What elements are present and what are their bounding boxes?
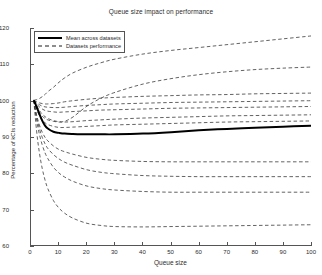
y-tick-label: 100: [0, 98, 9, 104]
dataset-line: [34, 100, 311, 127]
x-tick-label: 40: [127, 249, 157, 255]
y-tick-label: 80: [0, 170, 9, 176]
chart-title: Queue size impact on performance: [0, 8, 322, 15]
x-tick-label: 100: [296, 249, 322, 255]
dataset-line: [34, 100, 311, 176]
legend-label: Mean across datasets: [66, 35, 121, 41]
y-axis-label: Percentage of kCIs reduction: [10, 80, 16, 200]
dataset-line: [34, 100, 311, 192]
y-tick-label: 120: [0, 25, 9, 31]
x-tick-label: 80: [240, 249, 270, 255]
x-tick-label: 50: [156, 249, 186, 255]
series-canvas: [31, 28, 311, 245]
legend-label: Datasets performance: [66, 43, 121, 49]
y-tick-label: 90: [0, 134, 9, 140]
legend-item: Mean across datasets: [37, 34, 121, 42]
dataset-line: [34, 100, 311, 227]
x-axis-label: Queue size: [30, 259, 311, 266]
chart-legend: Mean across datasetsDatasets performance: [34, 31, 125, 53]
x-tick-label: 60: [184, 249, 214, 255]
y-tick-mark: [30, 246, 34, 247]
dataset-line: [34, 100, 311, 122]
dataset-line: [34, 100, 311, 107]
x-tick-label: 30: [99, 249, 129, 255]
x-tick-label: 90: [268, 249, 298, 255]
y-tick-label: 70: [0, 207, 9, 213]
x-tick-label: 70: [212, 249, 242, 255]
plot-axes: [30, 28, 311, 246]
x-tick-label: 10: [43, 249, 73, 255]
x-tick-label: 0: [15, 249, 45, 255]
y-tick-label: 60: [0, 243, 9, 249]
figure: Queue size impact on performance Percent…: [0, 0, 322, 275]
dataset-line: [34, 67, 311, 122]
x-tick-mark: [311, 242, 312, 246]
legend-solid-line-icon: [37, 34, 63, 42]
x-tick-label: 20: [71, 249, 101, 255]
y-tick-label: 110: [0, 61, 9, 67]
legend-item: Datasets performance: [37, 42, 121, 50]
legend-dashed-line-icon: [37, 42, 63, 50]
